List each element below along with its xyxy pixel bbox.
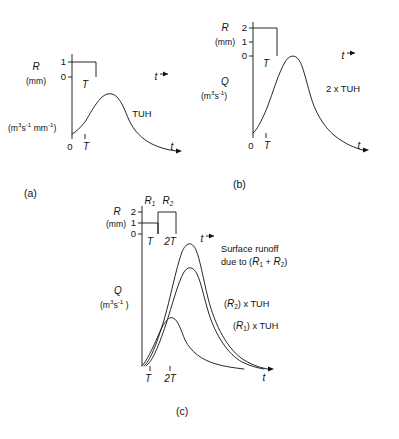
panel-c-rain-axis-unit: (mm)	[106, 219, 126, 229]
panel-c-flow-time-arrowhead	[268, 366, 274, 371]
panel-c-bar-label-r2: R2	[163, 195, 174, 207]
panel-a-flow-axis-unit: (m3s-1 mm-1)	[8, 121, 57, 133]
panel-c-rain-axis-var: R	[113, 206, 120, 217]
panel-c-hyetograph-bar-r2	[158, 212, 176, 234]
panel-c-hyetograph-bar-r1	[142, 223, 158, 234]
panel-b-flow-axis-unit: (m3s-1)	[201, 89, 227, 101]
panel-b-hydrograph-curve	[253, 56, 363, 150]
panel-c-annotation-r1: (R1) x TUH	[233, 320, 278, 332]
panel-b-hyetograph-bar	[253, 28, 277, 56]
panel-b-flow-time-arrowhead	[363, 147, 369, 152]
panel-a-rain-axis-var: R	[32, 61, 39, 72]
panel-b-flow-origin-label: 0	[248, 140, 253, 151]
panel-b-rain-axis-var: R	[221, 22, 228, 33]
panel-c-flow-time-label-2t: 2T	[163, 373, 177, 384]
panel-a-rain-axis-unit: (mm)	[26, 76, 46, 86]
panel-b-caption: (b)	[233, 178, 246, 190]
panel-b: 2 1 0 R (mm) T t Q (m3s-1) 0	[195, 0, 399, 200]
panel-a-flow-time-label: T	[83, 141, 90, 152]
panel-c-flow-time-label-t: T	[145, 373, 152, 384]
panel-b-rain-tick-label-1: 1	[242, 36, 247, 47]
panel-c-bar-label-r1: R1	[145, 195, 156, 207]
panel-b-rain-axis-unit: (mm)	[215, 37, 235, 47]
panel-b-flow-axis-var: Q	[221, 76, 229, 87]
panel-c-flow-axis-var: Q	[114, 285, 122, 296]
panel-b-rain-time-arrow-label: t	[342, 50, 346, 61]
panel-c-rain-time-arrow-label: t	[201, 233, 205, 244]
panel-c-curve-r1-tuh	[142, 318, 244, 369]
panel-c-rain-time-arrowhead	[209, 234, 214, 239]
panel-b-rain-time-tick-label: T	[263, 58, 270, 69]
panel-a-rain-time-arrow-label: t	[155, 71, 159, 82]
panel-c-annotation-sum-line2: due to (R1 + R2)	[221, 256, 287, 268]
panel-b-rain-tick-label-0: 0	[242, 50, 247, 61]
panel-b-rain-time-arrowhead	[350, 51, 355, 56]
panel-b-curve-label: 2 x TUH	[326, 83, 360, 94]
panel-c-annotation-r2: (R2) x TUH	[224, 298, 269, 310]
panel-c-curve-r2-tuh	[146, 268, 264, 369]
panel-a-flow-origin-label: 0	[67, 141, 72, 152]
figure-root: 1 0 R (mm) T t (m3s-1 mm-1) 0 T t	[0, 0, 399, 439]
panel-c-annotation-sum-line1: Surface runoff	[221, 244, 279, 254]
panel-c-rain-tick-label-1: 1	[131, 217, 136, 228]
panel-a-flow-time-arrowhead	[176, 148, 182, 153]
panel-a-rain-tick-label-1: 1	[61, 56, 66, 67]
panel-c-rain-tick-label-2: 2	[131, 206, 136, 217]
panel-b-rain-tick-label-2: 2	[242, 22, 247, 33]
panel-c-rain-tick-label-0: 0	[131, 228, 136, 239]
panel-a-curve-label: TUH	[132, 108, 151, 119]
panel-a-rain-tick-label-0: 0	[61, 71, 66, 82]
panel-c-rain-time-label-2t: 2T	[163, 236, 177, 247]
panel-c: 2 1 0 R (mm) R1 R2 T 2T t Q	[100, 190, 399, 439]
panel-c-rain-time-label-t: T	[147, 236, 154, 247]
panel-a-hyetograph-bar	[72, 62, 96, 77]
panel-c-flow-time-arrow-label: t	[263, 372, 267, 383]
panel-a-rain-time-tick-label: T	[82, 79, 89, 90]
panel-b-flow-time-label: T	[264, 140, 271, 151]
panel-c-flow-axis-unit: (m3s-1 )	[100, 298, 129, 310]
panel-a: 1 0 R (mm) T t (m3s-1 mm-1) 0 T t	[0, 0, 210, 215]
panel-c-caption: (c)	[176, 405, 188, 417]
panel-a-rain-time-arrowhead	[163, 72, 168, 77]
panel-a-caption: (a)	[24, 187, 37, 199]
